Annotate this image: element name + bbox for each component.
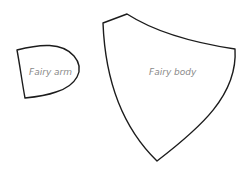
fairy-arm-piece: Fairy arm (17, 45, 79, 98)
pattern-canvas: Fairy arm Fairy body (0, 0, 252, 175)
fairy-body-outline (103, 14, 235, 161)
fairy-arm-label: Fairy arm (29, 67, 72, 77)
fairy-body-label: Fairy body (149, 67, 197, 77)
fairy-body-piece: Fairy body (103, 14, 235, 161)
